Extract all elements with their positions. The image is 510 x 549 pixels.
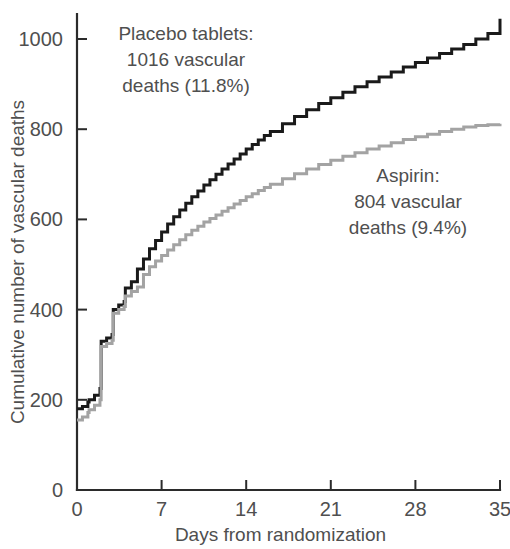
aspirin-annotation-line-2: 804 vascular <box>354 191 462 212</box>
cumulative-vascular-deaths-chart: 020040060080010000714212835 Days from ra… <box>0 0 510 549</box>
x-tick-label-21: 21 <box>320 498 342 520</box>
y-tick-label-800: 800 <box>30 118 63 140</box>
aspirin-annotation-line-3: deaths (9.4%) <box>349 217 467 238</box>
x-tick-label-0: 0 <box>71 498 82 520</box>
y-tick-label-0: 0 <box>52 479 63 501</box>
x-tick-label-14: 14 <box>235 498 257 520</box>
y-tick-label-400: 400 <box>30 299 63 321</box>
x-tick-label-35: 35 <box>489 498 510 520</box>
x-tick-label-7: 7 <box>156 498 167 520</box>
y-tick-label-200: 200 <box>30 389 63 411</box>
axis-titles: Days from randomizationCumulative number… <box>7 100 386 545</box>
placebo-annotation-line-3: deaths (11.8%) <box>122 75 249 96</box>
x-axis-title: Days from randomization <box>175 524 386 545</box>
placebo-annotation-line-1: Placebo tablets: <box>118 23 253 44</box>
y-tick-label-600: 600 <box>30 208 63 230</box>
y-tick-label-1000: 1000 <box>19 28 64 50</box>
tick-labels: 020040060080010000714212835 <box>19 28 510 520</box>
placebo-annotation-line-2: 1016 vascular <box>127 49 246 70</box>
placebo-annotation: Placebo tablets:1016 vasculardeaths (11.… <box>118 23 253 96</box>
x-tick-label-28: 28 <box>404 498 426 520</box>
annotations: Placebo tablets:1016 vasculardeaths (11.… <box>118 23 467 238</box>
y-axis-title: Cumulative number of vascular deaths <box>7 100 28 424</box>
tick-marks <box>77 39 500 490</box>
aspirin-annotation: Aspirin:804 vasculardeaths (9.4%) <box>349 165 467 238</box>
chart-figure: 020040060080010000714212835 Days from ra… <box>0 0 510 549</box>
aspirin-annotation-line-1: Aspirin: <box>376 165 439 186</box>
